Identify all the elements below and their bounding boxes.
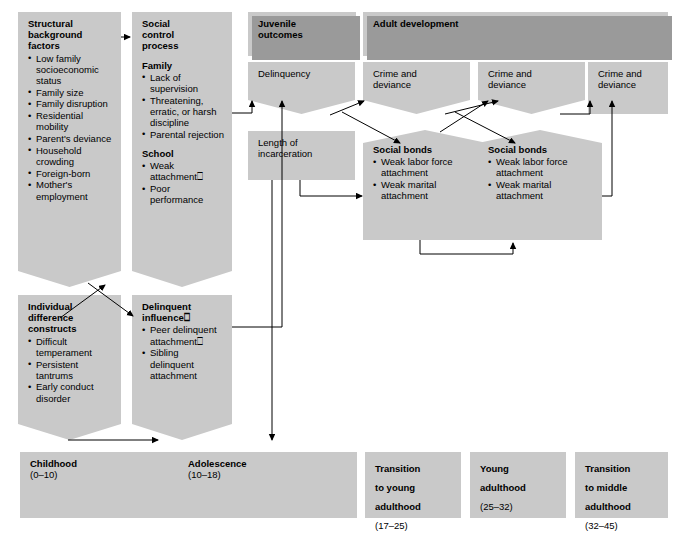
list-item: Parental rejection <box>142 129 224 140</box>
list-item: Weak marital attachment <box>373 179 479 201</box>
delinquent-influence-heading: Delinquent influence⎕ <box>142 301 224 323</box>
incarceration-label: Length of incarceration <box>258 137 347 159</box>
header-juvenile-label: Juvenile outcomes <box>258 18 348 40</box>
box-individual-difference-constructs: Individual difference constructs Difficu… <box>18 295 121 440</box>
timeline-trans-middle-label: Transition to middle adulthood <box>585 463 631 512</box>
timeline-young-adult-label: Young adulthood <box>480 463 526 493</box>
crime-deviance-1-label: Crime and deviance <box>373 68 462 90</box>
crime-deviance-3-label: Crime and deviance <box>598 68 660 90</box>
header-adult-development: Adult development <box>363 12 668 56</box>
timeline-trans-young-range: (17–25) <box>375 520 408 531</box>
social-control-heading: Social control process <box>142 18 224 52</box>
arrow-incarceration-to-bonds1 <box>300 180 362 196</box>
list-item: Poor performance <box>142 183 224 205</box>
timeline-adolescence-label: Adolescence <box>188 458 247 469</box>
crime-deviance-2-label: Crime and deviance <box>488 68 577 90</box>
box-crime-deviance-2: Crime and deviance <box>478 62 585 114</box>
timeline-childhood: Childhood (0–10) <box>30 458 77 480</box>
box-structural-background-factors: Structural background factors Low family… <box>18 12 121 287</box>
social-bonds-2-heading: Social bonds <box>488 144 594 155</box>
delinquent-influence-list: Peer delinquent attachment⎕ Sibling deli… <box>142 324 224 381</box>
individual-heading: Individual difference constructs <box>28 301 113 335</box>
box-social-control-process: Social control process Family Lack of su… <box>132 12 232 287</box>
list-item: Weak attachment⎕ <box>142 160 224 182</box>
timeline-transition-middle-adulthood: Transition to middle adulthood (32–45) <box>575 452 668 518</box>
list-item: Household crowding <box>28 145 113 167</box>
timeline-transition-young-adulthood: Transition to young adulthood (17–25) <box>365 452 461 518</box>
list-item: Persistent tantrums <box>28 359 113 381</box>
structural-heading: Structural background factors <box>28 18 113 52</box>
header-juvenile-outcomes: Juvenile outcomes <box>248 12 356 56</box>
individual-list: Difficult temperament Persistent tantrum… <box>28 336 113 404</box>
list-item: Parent's deviance <box>28 133 113 144</box>
arrow-bonds1-to-bonds2 <box>420 240 513 254</box>
box-social-bonds-1: Social bonds Weak labor force attachment… <box>363 130 487 240</box>
list-item: Weak marital attachment <box>488 179 594 201</box>
list-item: Sibling delinquent attachment <box>142 347 224 381</box>
list-item: Foreign-born <box>28 168 113 179</box>
list-item: Lack of supervision <box>142 72 224 94</box>
list-item: Low family socioeconomic status <box>28 53 113 87</box>
timeline-young-adulthood: Young adulthood (25–32) <box>470 452 566 518</box>
list-item: Residential mobility <box>28 110 113 132</box>
list-item: Difficult temperament <box>28 336 113 358</box>
list-item: Family size <box>28 87 113 98</box>
arrow-bonds2-to-crime3 <box>602 101 612 196</box>
header-adult-label: Adult development <box>373 18 660 29</box>
arrow-social-control-to-delinquency <box>232 101 252 113</box>
timeline-childhood-label: Childhood <box>30 458 77 469</box>
list-item: Weak labor force attachment <box>373 156 479 178</box>
list-item: Weak labor force attachment <box>488 156 594 178</box>
box-crime-deviance-3: Crime and deviance <box>588 62 668 114</box>
family-list: Lack of supervision Threatening, erratic… <box>142 72 224 140</box>
timeline-adolescence-range: (10–18) <box>188 469 221 480</box>
list-item: Family disruption <box>28 98 113 109</box>
social-bonds-1-heading: Social bonds <box>373 144 479 155</box>
list-item: Threatening, erratic, or harsh disciplin… <box>142 95 224 129</box>
social-bonds-2-list: Weak labor force attachment Weak marital… <box>488 156 594 201</box>
box-social-bonds-2: Social bonds Weak labor force attachment… <box>478 130 602 240</box>
list-item: Mother's employment <box>28 179 113 201</box>
box-length-of-incarceration: Length of incarceration <box>248 131 355 180</box>
delinquency-label: Delinquency <box>258 68 347 79</box>
timeline-trans-middle-range: (32–45) <box>585 520 618 531</box>
timeline-band-childhood-adolescence: Childhood (0–10) Adolescence (10–18) <box>20 452 357 518</box>
structural-list: Low family socioeconomic status Family s… <box>28 53 113 202</box>
box-delinquent-influence: Delinquent influence⎕ Peer delinquent at… <box>132 295 232 440</box>
list-item: Peer delinquent attachment⎕ <box>142 324 224 346</box>
school-list: Weak attachment⎕ Poor performance <box>142 160 224 205</box>
box-delinquency: Delinquency <box>248 62 355 114</box>
box-crime-deviance-1: Crime and deviance <box>363 62 470 114</box>
social-bonds-1-list: Weak labor force attachment Weak marital… <box>373 156 479 201</box>
list-item: Early conduct disorder <box>28 381 113 403</box>
timeline-childhood-range: (0–10) <box>30 469 57 480</box>
social-control-section-family: Family <box>142 60 224 71</box>
social-control-section-school: School <box>142 148 224 159</box>
timeline-young-adult-range: (25–32) <box>480 501 513 512</box>
timeline-trans-young-label: Transition to young adulthood <box>375 463 421 512</box>
timeline-adolescence: Adolescence (10–18) <box>188 458 247 480</box>
